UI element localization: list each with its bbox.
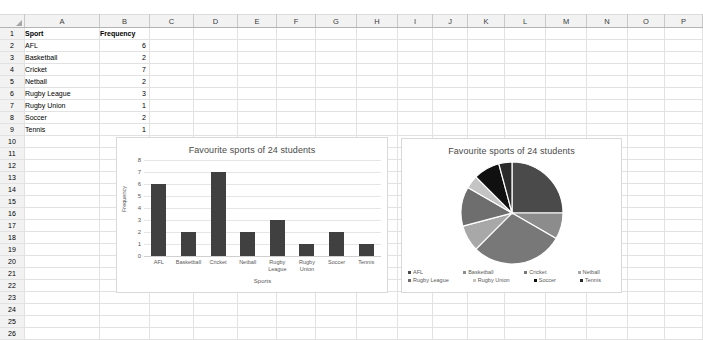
cell-p18[interactable]	[665, 232, 703, 244]
cell-k7[interactable]	[468, 100, 505, 112]
column-header-j[interactable]: J	[433, 15, 468, 28]
row-header-21[interactable]: 21	[0, 268, 25, 280]
cell-j6[interactable]	[433, 88, 468, 100]
cell-m1[interactable]	[546, 28, 587, 40]
cell-d24[interactable]	[194, 304, 238, 316]
cell-m9[interactable]	[546, 124, 587, 136]
cell-p26[interactable]	[665, 328, 703, 340]
cell-a24[interactable]	[25, 304, 100, 316]
cell-a18[interactable]	[25, 232, 100, 244]
cell-a26[interactable]	[25, 328, 100, 340]
cell-f4[interactable]	[277, 64, 316, 76]
cell-l4[interactable]	[505, 64, 546, 76]
cell-p10[interactable]	[665, 136, 703, 148]
cell-c7[interactable]	[150, 100, 194, 112]
cell-a4[interactable]: Cricket	[25, 64, 100, 76]
cell-j1[interactable]	[433, 28, 468, 40]
column-header-p[interactable]: P	[665, 15, 703, 28]
cell-g1[interactable]	[316, 28, 357, 40]
cell-a9[interactable]: Tennis	[25, 124, 100, 136]
cell-g7[interactable]	[316, 100, 357, 112]
cell-p9[interactable]	[665, 124, 703, 136]
cell-b9[interactable]: 1	[100, 124, 150, 136]
cell-m7[interactable]	[546, 100, 587, 112]
cell-b26[interactable]	[100, 328, 150, 340]
cell-h9[interactable]	[357, 124, 398, 136]
cell-b25[interactable]	[100, 316, 150, 328]
cell-a8[interactable]: Soccer	[25, 112, 100, 124]
row-header-8[interactable]: 8	[0, 112, 25, 124]
cell-a5[interactable]: Netball	[25, 76, 100, 88]
cell-k8[interactable]	[468, 112, 505, 124]
cell-l7[interactable]	[505, 100, 546, 112]
cell-a16[interactable]	[25, 208, 100, 220]
column-header-b[interactable]: B	[100, 15, 150, 28]
cell-o10[interactable]	[628, 136, 665, 148]
cell-e5[interactable]	[238, 76, 277, 88]
column-header-c[interactable]: C	[150, 15, 194, 28]
cell-b7[interactable]: 1	[100, 100, 150, 112]
cell-j25[interactable]	[433, 316, 468, 328]
cell-l5[interactable]	[505, 76, 546, 88]
cell-e1[interactable]	[238, 28, 277, 40]
row-header-22[interactable]: 22	[0, 280, 25, 292]
cell-p5[interactable]	[665, 76, 703, 88]
cell-k9[interactable]	[468, 124, 505, 136]
cell-m5[interactable]	[546, 76, 587, 88]
cell-g24[interactable]	[316, 304, 357, 316]
cell-p7[interactable]	[665, 100, 703, 112]
cell-o17[interactable]	[628, 220, 665, 232]
cell-b1[interactable]: Frequency	[100, 28, 150, 40]
cell-n5[interactable]	[587, 76, 628, 88]
cell-e7[interactable]	[238, 100, 277, 112]
cell-f8[interactable]	[277, 112, 316, 124]
column-header-h[interactable]: H	[357, 15, 398, 28]
cell-o8[interactable]	[628, 112, 665, 124]
cell-p14[interactable]	[665, 184, 703, 196]
column-header-d[interactable]: D	[194, 15, 238, 28]
cell-p16[interactable]	[665, 208, 703, 220]
cell-j8[interactable]	[433, 112, 468, 124]
cell-a15[interactable]	[25, 196, 100, 208]
cell-b5[interactable]: 2	[100, 76, 150, 88]
cell-a21[interactable]	[25, 268, 100, 280]
row-header-7[interactable]: 7	[0, 100, 25, 112]
cell-c2[interactable]	[150, 40, 194, 52]
select-all-corner[interactable]	[0, 15, 25, 28]
cell-k5[interactable]	[468, 76, 505, 88]
cell-c3[interactable]	[150, 52, 194, 64]
cell-b2[interactable]: 6	[100, 40, 150, 52]
cell-a17[interactable]	[25, 220, 100, 232]
column-header-g[interactable]: G	[316, 15, 357, 28]
cell-e26[interactable]	[238, 328, 277, 340]
cell-n25[interactable]	[587, 316, 628, 328]
cell-a6[interactable]: Rugby League	[25, 88, 100, 100]
cell-a12[interactable]	[25, 160, 100, 172]
column-header-m[interactable]: M	[546, 15, 587, 28]
cell-o19[interactable]	[628, 244, 665, 256]
cell-j3[interactable]	[433, 52, 468, 64]
column-header-i[interactable]: I	[398, 15, 433, 28]
cell-a19[interactable]	[25, 244, 100, 256]
cell-o26[interactable]	[628, 328, 665, 340]
cell-c1[interactable]	[150, 28, 194, 40]
cell-p24[interactable]	[665, 304, 703, 316]
cell-g26[interactable]	[316, 328, 357, 340]
cell-o20[interactable]	[628, 256, 665, 268]
cell-o18[interactable]	[628, 232, 665, 244]
column-header-f[interactable]: F	[277, 15, 316, 28]
cell-j26[interactable]	[433, 328, 468, 340]
cell-p13[interactable]	[665, 172, 703, 184]
cell-o12[interactable]	[628, 160, 665, 172]
column-header-o[interactable]: O	[628, 15, 665, 28]
cell-g3[interactable]	[316, 52, 357, 64]
cell-i2[interactable]	[398, 40, 433, 52]
row-header-25[interactable]: 25	[0, 316, 25, 328]
row-header-17[interactable]: 17	[0, 220, 25, 232]
cell-n8[interactable]	[587, 112, 628, 124]
cell-c5[interactable]	[150, 76, 194, 88]
cell-g6[interactable]	[316, 88, 357, 100]
cell-a7[interactable]: Rugby Union	[25, 100, 100, 112]
cell-o22[interactable]	[628, 280, 665, 292]
cell-l2[interactable]	[505, 40, 546, 52]
